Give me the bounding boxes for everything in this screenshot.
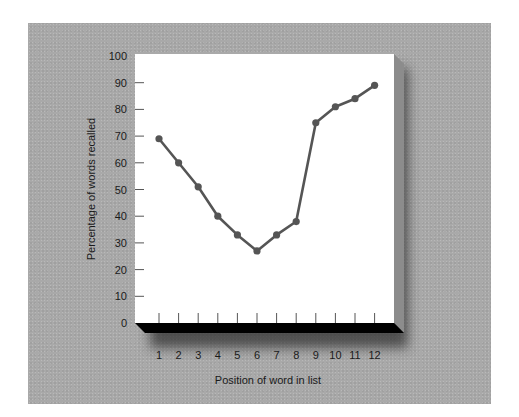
x-tick-label: 5	[234, 349, 240, 361]
data-point	[273, 231, 280, 238]
x-tick-label: 12	[368, 349, 380, 361]
y-tick-label: 80	[115, 103, 127, 115]
x-tick-label: 6	[254, 349, 260, 361]
x-tick-label: 8	[293, 349, 299, 361]
data-point	[175, 159, 182, 166]
panel-side-face	[394, 54, 404, 333]
y-tick-label: 100	[109, 50, 127, 62]
x-tick-label: 1	[156, 349, 162, 361]
x-tick-label: 2	[176, 349, 182, 361]
y-tick-label: 50	[115, 184, 127, 196]
x-axis-title: Position of word in list	[215, 374, 321, 386]
y-tick-label: 10	[115, 290, 127, 302]
data-point	[293, 218, 300, 225]
x-tick-label: 3	[195, 349, 201, 361]
data-point	[371, 82, 378, 89]
x-tick-label: 9	[313, 349, 319, 361]
y-tick-label: 60	[115, 157, 127, 169]
serial-position-chart: 0102030405060708090100 123456789101112 P…	[0, 0, 519, 417]
plot-area	[135, 54, 394, 323]
data-point	[214, 213, 221, 220]
data-point	[195, 183, 202, 190]
y-tick-label: 40	[115, 210, 127, 222]
x-tick-label: 11	[349, 349, 360, 361]
y-tick-label: 30	[115, 237, 127, 249]
y-tick-label: 90	[115, 77, 127, 89]
y-tick-label: 20	[115, 264, 127, 276]
data-point	[155, 135, 162, 142]
x-tick-label: 10	[329, 349, 341, 361]
data-point	[253, 247, 260, 254]
y-axis-title: Percentage of words recalled	[85, 118, 97, 260]
data-point	[332, 103, 339, 110]
data-point	[234, 231, 241, 238]
x-tick-label: 4	[215, 349, 221, 361]
y-tick-label: 70	[115, 130, 127, 142]
data-point	[351, 95, 358, 102]
y-tick-label: 0	[121, 317, 127, 329]
data-point	[312, 119, 319, 126]
panel-base	[135, 323, 404, 333]
x-tick-label: 7	[274, 349, 280, 361]
